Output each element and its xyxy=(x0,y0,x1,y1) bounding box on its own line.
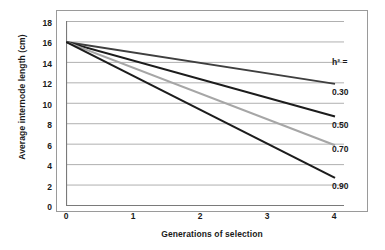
line-chart: Average internode length (cm) 18 16 14 1… xyxy=(0,0,385,250)
plot-area xyxy=(66,21,344,207)
series-line-050 xyxy=(66,42,335,117)
y-tick-label: 12 xyxy=(26,80,52,89)
series-label-090: 0.90 xyxy=(332,182,349,191)
series-line-070 xyxy=(66,42,335,145)
x-axis-title: Generations of selection xyxy=(56,229,368,239)
y-tick-label: 18 xyxy=(26,19,52,28)
y-tick-label: 2 xyxy=(26,183,52,192)
legend-title: h² = xyxy=(332,58,347,67)
series-label-030: 0.30 xyxy=(332,88,349,97)
y-tick-label: 4 xyxy=(26,162,52,171)
y-tick-label: 8 xyxy=(26,121,52,130)
series-label-050: 0.50 xyxy=(332,121,349,130)
y-tick-label: 10 xyxy=(26,101,52,110)
y-tick-label: 6 xyxy=(26,142,52,151)
y-tick-label: 0 xyxy=(26,203,52,212)
y-tick-label: 16 xyxy=(26,39,52,48)
x-tick-label: 2 xyxy=(185,212,215,221)
x-tick-label: 1 xyxy=(118,212,148,221)
series-label-070: 0.70 xyxy=(332,145,349,154)
x-tick-label: 3 xyxy=(252,212,282,221)
x-tick-label: 0 xyxy=(51,212,81,221)
x-tick-label: 4 xyxy=(319,212,349,221)
plot-canvas xyxy=(66,21,344,207)
y-tick-label: 14 xyxy=(26,60,52,69)
